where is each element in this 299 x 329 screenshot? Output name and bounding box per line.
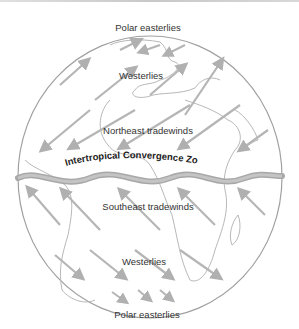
label-westerlies-south: Westerlies	[122, 256, 166, 267]
label-polar-easterlies-north: Polar easterlies	[115, 22, 180, 33]
label-westerlies-north: Westerlies	[119, 70, 163, 81]
label-southeast-tradewinds: Southeast tradewinds	[102, 201, 193, 212]
label-northeast-tradewinds: Northeast tradewinds	[103, 125, 193, 136]
globe-diagram: Intertropical Convergence Zone	[0, 0, 299, 329]
label-polar-easterlies-south: Polar easterlies	[114, 309, 179, 320]
